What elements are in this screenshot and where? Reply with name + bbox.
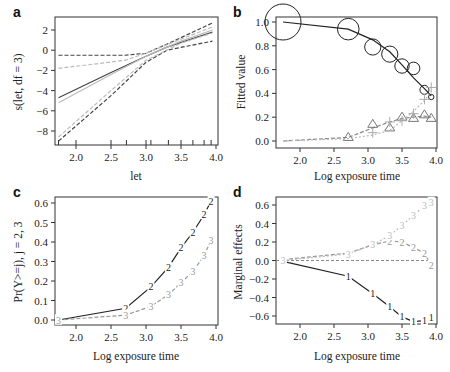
x-tick-label: 2.0 bbox=[69, 331, 83, 343]
panel-b-xlabel: Log exposure time bbox=[314, 170, 400, 183]
series-point-label: 3 bbox=[422, 200, 427, 211]
x-tick-label: 2.5 bbox=[327, 154, 341, 166]
x-tick-label: 2.5 bbox=[104, 151, 118, 163]
panel-c-xlabel: Log exposure time bbox=[93, 350, 179, 363]
y-tick-label: 0.2 bbox=[255, 111, 269, 123]
series-point-label: 3 bbox=[281, 255, 286, 266]
series-point-label: 2 bbox=[148, 281, 153, 292]
panel-c: 2.02.53.03.54.00.60.50.40.30.20.10.02222… bbox=[34, 196, 223, 343]
series-line bbox=[283, 22, 431, 96]
series-line bbox=[283, 202, 431, 260]
series-point-label: 3 bbox=[190, 266, 195, 277]
x-tick-label: 2.5 bbox=[327, 330, 341, 342]
y-tick-label: −4 bbox=[36, 85, 48, 97]
series-point-label: 3 bbox=[400, 220, 405, 231]
x-tick-label: 3.0 bbox=[139, 151, 153, 163]
series-point-label: 1 bbox=[387, 301, 392, 312]
series-line bbox=[59, 32, 213, 98]
series-point-label: 3 bbox=[387, 230, 392, 241]
y-tick-label: 0.4 bbox=[255, 218, 269, 230]
x-tick-label: 3.5 bbox=[395, 154, 409, 166]
series-point-label: 3 bbox=[429, 197, 434, 208]
y-tick-label: 0.4 bbox=[34, 236, 48, 248]
series-point-label: 1 bbox=[422, 315, 427, 326]
y-tick-label: 0.0 bbox=[34, 314, 48, 326]
y-tick-label: 0.8 bbox=[255, 40, 269, 52]
series-line bbox=[59, 41, 213, 141]
y-tick-label: 0 bbox=[43, 44, 49, 56]
panel-b: 2.02.53.03.54.01.00.80.60.40.20.0 bbox=[255, 4, 443, 166]
circle-marker bbox=[382, 46, 398, 62]
series-point-label: 1 bbox=[400, 311, 405, 322]
series-point-label: 3 bbox=[179, 277, 184, 288]
panel-b-ylabel: Fitted value bbox=[235, 55, 247, 110]
series-point-label: 3 bbox=[346, 249, 351, 260]
series-point-label: 2 bbox=[400, 237, 405, 248]
y-tick-label: 0.6 bbox=[255, 64, 269, 76]
y-tick-label: 0.2 bbox=[255, 236, 269, 248]
x-tick-label: 2.0 bbox=[69, 151, 83, 163]
panel-a-ylabel: s(let, df = 3) bbox=[12, 53, 25, 110]
series-point-label: 3 bbox=[202, 250, 207, 261]
x-tick-label: 3.5 bbox=[174, 151, 188, 163]
series-line bbox=[283, 241, 431, 265]
series-point-label: 2 bbox=[202, 209, 207, 220]
y-tick-label: −0.6 bbox=[249, 310, 269, 322]
y-tick-label: 0.2 bbox=[34, 275, 48, 287]
panel-b-letter: b bbox=[233, 4, 242, 20]
x-tick-label: 3.5 bbox=[395, 330, 409, 342]
series-point-label: 1 bbox=[346, 271, 351, 282]
panel-d-letter: d bbox=[233, 184, 242, 200]
x-tick-label: 3.0 bbox=[139, 331, 153, 343]
series-point-label: 2 bbox=[209, 196, 214, 207]
panel-d-ylabel: Marginal effects bbox=[232, 224, 245, 300]
y-tick-label: 0.6 bbox=[255, 199, 269, 211]
y-tick-label: 0.0 bbox=[255, 135, 269, 147]
series-point-label: 2 bbox=[429, 260, 434, 271]
series-line bbox=[283, 261, 431, 321]
series-point-label: 2 bbox=[422, 248, 427, 259]
series-point-label: 2 bbox=[179, 242, 184, 253]
y-tick-label: −0.2 bbox=[249, 273, 269, 285]
x-tick-label: 3.0 bbox=[361, 330, 375, 342]
x-tick-label: 4.0 bbox=[209, 151, 223, 163]
y-tick-label: −2 bbox=[36, 64, 48, 76]
plot-frame bbox=[55, 197, 218, 325]
y-tick-label: 0.0 bbox=[255, 255, 269, 267]
series-point-label: 3 bbox=[370, 239, 375, 250]
panel-a: 2.02.53.03.54.020−2−4−6−8 bbox=[36, 17, 223, 163]
series-point-label: 3 bbox=[209, 235, 214, 246]
series-point-label: 1 bbox=[370, 288, 375, 299]
x-tick-label: 4.0 bbox=[429, 154, 443, 166]
y-tick-label: −6 bbox=[36, 105, 48, 117]
panel-a-letter: a bbox=[13, 4, 21, 20]
series-point-label: 2 bbox=[166, 262, 171, 273]
x-tick-label: 4.0 bbox=[209, 331, 223, 343]
series-point-label: 1 bbox=[411, 316, 416, 327]
series-point-label: 2 bbox=[411, 242, 416, 253]
circle-marker bbox=[420, 85, 429, 94]
series-point-label: 1 bbox=[429, 312, 434, 323]
y-tick-label: 0.4 bbox=[255, 87, 269, 99]
figure-root: a b c d let Log exposure time Log exposu… bbox=[0, 0, 450, 372]
x-tick-label: 2.0 bbox=[293, 154, 307, 166]
y-tick-label: 0.1 bbox=[34, 295, 48, 307]
y-tick-label: 0.6 bbox=[34, 197, 48, 209]
series-line bbox=[59, 240, 212, 320]
x-tick-label: 2.5 bbox=[104, 331, 118, 343]
x-tick-label: 3.0 bbox=[361, 154, 375, 166]
y-tick-label: −8 bbox=[36, 125, 48, 137]
series-point-label: 3 bbox=[148, 301, 153, 312]
x-tick-label: 3.5 bbox=[174, 331, 188, 343]
series-point-label: 2 bbox=[190, 227, 195, 238]
y-tick-label: 1.0 bbox=[255, 16, 269, 28]
series-point-label: 3 bbox=[411, 210, 416, 221]
figure-canvas: a b c d let Log exposure time Log exposu… bbox=[0, 0, 450, 372]
triangle-marker bbox=[368, 119, 378, 127]
y-tick-label: 0.3 bbox=[34, 256, 48, 268]
x-tick-label: 4.0 bbox=[429, 330, 443, 342]
y-tick-label: 2 bbox=[43, 24, 49, 36]
panel-d-xlabel: Log exposure time bbox=[314, 350, 400, 363]
panel-c-ylabel: Pr(Y>=j), j = 2, 3 bbox=[12, 221, 25, 302]
series-point-label: 3 bbox=[166, 289, 171, 300]
